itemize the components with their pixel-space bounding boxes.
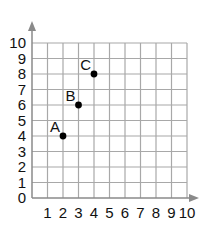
- x-tick-label: 8: [152, 204, 160, 221]
- y-tick-label: 5: [18, 112, 26, 129]
- y-axis-tick-labels: 012345678910: [9, 34, 26, 206]
- x-tick-label: 5: [105, 204, 113, 221]
- x-tick-label: 4: [90, 204, 98, 221]
- point-label: A: [50, 118, 60, 135]
- y-tick-label: 7: [18, 81, 26, 98]
- coordinate-grid: 012345678910 12345678910 ABC: [0, 0, 216, 229]
- x-tick-label: 1: [43, 204, 51, 221]
- x-tick-label: 10: [179, 204, 196, 221]
- point-marker: [75, 102, 82, 109]
- y-axis-arrow-icon: [28, 21, 36, 31]
- y-tick-label: 8: [18, 65, 26, 82]
- plotted-points: ABC: [50, 56, 97, 139]
- x-tick-label: 6: [121, 204, 129, 221]
- point-label: C: [80, 56, 91, 73]
- point-marker: [60, 133, 67, 140]
- y-tick-label: 9: [18, 50, 26, 67]
- x-tick-label: 2: [59, 204, 67, 221]
- y-tick-label: 3: [18, 143, 26, 160]
- y-tick-label: 0: [18, 189, 26, 206]
- x-tick-label: 7: [136, 204, 144, 221]
- x-axis-tick-labels: 12345678910: [43, 204, 195, 221]
- x-tick-label: 3: [74, 204, 82, 221]
- y-tick-label: 10: [9, 34, 26, 51]
- x-axis-arrow-icon: [189, 194, 199, 202]
- y-tick-label: 6: [18, 96, 26, 113]
- y-tick-label: 4: [18, 127, 26, 144]
- point-label: B: [65, 87, 75, 104]
- point-marker: [91, 71, 98, 78]
- x-tick-label: 9: [167, 204, 175, 221]
- axes: [28, 21, 199, 202]
- y-tick-label: 2: [18, 158, 26, 175]
- y-tick-label: 1: [18, 174, 26, 191]
